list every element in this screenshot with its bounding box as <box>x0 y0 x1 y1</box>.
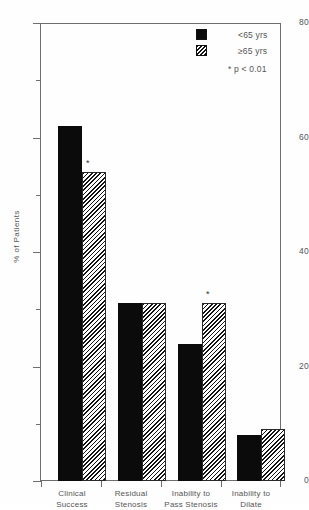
x-category-line-2: Pass Stenosis <box>157 500 225 510</box>
x-tick-3 <box>221 481 222 487</box>
bar-residual-stenosis-under65 <box>118 303 142 481</box>
y-tick-label-80: 80 <box>283 18 309 27</box>
x-category-line-1: Inability to <box>157 489 225 500</box>
legend-swatch-solid-icon <box>196 29 207 40</box>
legend-label-over65: ≥65 yrs <box>238 46 267 56</box>
y-tick-label-20: 20 <box>283 362 309 371</box>
bar-clinical-success-under65 <box>58 126 82 481</box>
y-tick-80 <box>33 23 41 24</box>
x-category-line-2: Success <box>42 500 102 510</box>
bar-inability-dilate-over65 <box>261 429 285 481</box>
x-category-inability-dilate: Inability to Dilate <box>221 489 281 510</box>
x-category-line-1: Inability to <box>221 489 281 500</box>
x-tick-1 <box>101 481 102 487</box>
bar-group-clinical-success: * <box>58 23 106 481</box>
y-tick-60 <box>33 138 41 139</box>
significance-star-inability-pass-stenosis: * <box>206 290 210 299</box>
y-tick-40 <box>33 252 41 253</box>
bar-residual-stenosis-over65 <box>142 303 166 481</box>
x-category-line-2: Dilate <box>221 500 281 510</box>
bar-inability-pass-stenosis-under65 <box>178 344 202 481</box>
y-tick-label-60: 60 <box>283 133 309 142</box>
x-category-inability-pass-stenosis: Inability to Pass Stenosis <box>157 489 225 510</box>
bar-group-inability-dilate <box>237 23 285 481</box>
y-tick-20 <box>33 367 41 368</box>
x-tick-left-edge <box>41 481 42 487</box>
significance-star-clinical-success: * <box>86 159 90 168</box>
y-tick-0 <box>33 481 41 482</box>
bar-inability-pass-stenosis-over65 <box>202 303 226 481</box>
x-tick-right-edge <box>280 481 281 487</box>
legend-label-under65: <65 yrs <box>238 30 268 40</box>
bar-group-inability-pass-stenosis: * <box>178 23 226 481</box>
bar-clinical-success-over65 <box>82 172 106 481</box>
y-tick-label-40: 40 <box>283 247 309 256</box>
legend-swatch-hatch-icon <box>196 45 207 56</box>
y-axis-title: % of Patients <box>12 197 21 277</box>
legend-significance-note: * p < 0.01 <box>228 64 267 74</box>
x-tick-2 <box>161 481 162 487</box>
x-category-line-2: Stenosis <box>101 500 161 510</box>
bars-container: * * <box>41 23 280 481</box>
x-category-residual-stenosis: Residual Stenosis <box>101 489 161 510</box>
bar-inability-dilate-under65 <box>237 435 261 481</box>
x-category-line-1: Clinical <box>42 489 102 500</box>
x-category-line-1: Residual <box>101 489 161 500</box>
y-tick-label-0: 0 <box>283 476 309 485</box>
bar-group-residual-stenosis <box>118 23 166 481</box>
x-category-clinical-success: Clinical Success <box>42 489 102 510</box>
